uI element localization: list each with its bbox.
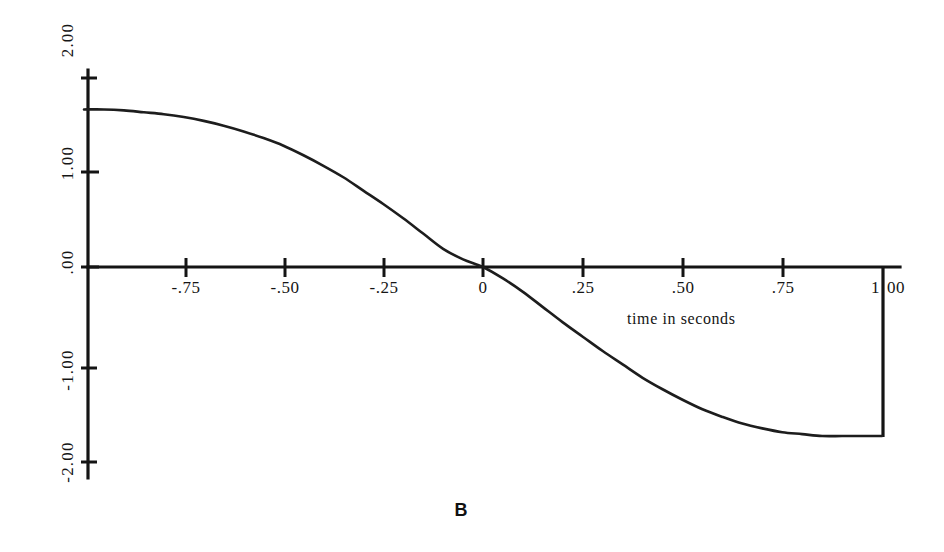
plot-canvas [0,0,944,552]
x-axis-title: time in seconds [627,310,736,328]
y-tick-label-neg2: -2.00 [58,441,78,482]
x-tick-label-025: .25 [572,278,595,298]
x-tick-label-100-right: 00 [883,278,905,298]
y-tick-label-1: 1.00 [58,146,78,181]
x-tick-label-0: 0 [479,278,488,298]
x-tick-label-075: .75 [772,278,795,298]
x-tick-label-neg025: -.25 [370,278,399,298]
y-tick-label-0: .00 [58,250,78,275]
panel-caption: B [455,500,468,521]
x-tick-label-neg050: -.50 [271,278,300,298]
y-axis-ticks [81,78,99,462]
y-tick-label-2: 2.00 [58,23,78,58]
y-tick-label-neg1: -1.00 [58,349,78,390]
x-tick-label-neg075: -.75 [172,278,201,298]
figure-panel: -.75 -.50 -.25 0 .25 .50 .75 1 00 2.00 1… [0,0,944,552]
x-tick-label-050: .50 [672,278,695,298]
x-tick-label-100-left: 1 [871,278,883,298]
